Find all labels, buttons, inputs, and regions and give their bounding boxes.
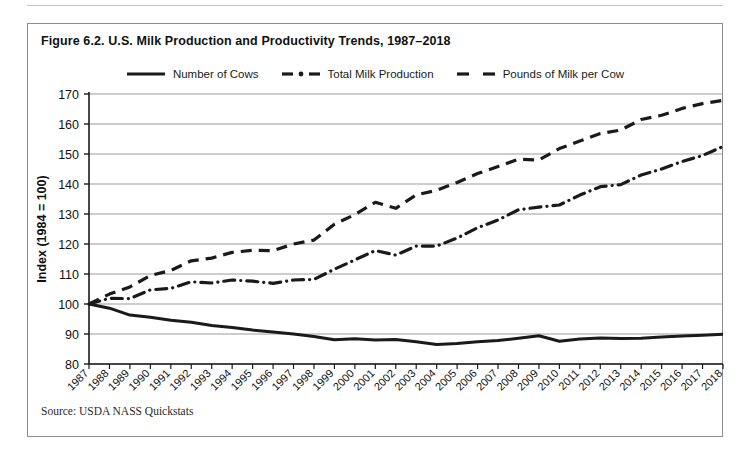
x-tick-label-1999: 1999: [310, 367, 336, 393]
x-tick-label-2015: 2015: [637, 367, 663, 393]
x-tick-label-1988: 1988: [85, 367, 111, 393]
x-tick-label-2000: 2000: [330, 367, 356, 393]
y-tick-label-110: 110: [59, 268, 79, 282]
x-tick-label-2005: 2005: [433, 367, 459, 393]
x-tick-label-1996: 1996: [249, 367, 275, 393]
x-tick-label-2003: 2003: [392, 367, 418, 393]
y-tick-label-90: 90: [65, 328, 79, 342]
x-tick-label-1998: 1998: [290, 367, 316, 393]
plot-area-wrapper: 1701601501401301201101009080 19871988198…: [28, 24, 724, 438]
x-tick-label-2004: 2004: [412, 367, 438, 393]
series-line-total-milk-production: [89, 147, 723, 305]
x-tick-label-2018: 2018: [699, 367, 724, 393]
x-tick-label-2010: 2010: [535, 367, 561, 393]
y-tick-labels: 1701601501401301201101009080: [58, 88, 79, 372]
x-tick-label-1995: 1995: [228, 367, 254, 393]
x-tick-label-2011: 2011: [556, 367, 581, 392]
x-tick-label-1992: 1992: [167, 367, 193, 393]
y-tick-label-150: 150: [58, 148, 79, 162]
x-tick-label-2009: 2009: [515, 367, 541, 393]
y-tick-label-120: 120: [58, 238, 79, 252]
x-tick-label-1993: 1993: [187, 367, 213, 393]
data-series-group: [89, 100, 723, 344]
milk-production-line-chart: 1701601501401301201101009080 19871988198…: [28, 24, 724, 438]
x-tick-label-2007: 2007: [474, 367, 500, 393]
y-axis: [84, 92, 89, 364]
x-tick-label-2002: 2002: [371, 367, 397, 393]
x-tick-labels: 1987198819891990199119921993199419951996…: [65, 367, 724, 393]
series-line-number-of-cows: [89, 304, 723, 345]
x-tick-label-1990: 1990: [126, 367, 152, 393]
y-axis-title-text: Index (1984 = 100): [35, 175, 49, 282]
source-note: Source: USDA NASS Quickstats: [41, 405, 193, 417]
y-tick-label-130: 130: [58, 208, 79, 222]
y-tick-label-80: 80: [65, 358, 79, 372]
y-axis-title: Index (1984 = 100): [35, 175, 49, 282]
x-tick-label-2012: 2012: [576, 367, 602, 393]
x-tick-label-2008: 2008: [494, 367, 520, 393]
x-tick-label-2016: 2016: [658, 367, 684, 393]
x-tick-label-2014: 2014: [617, 367, 643, 393]
figure-container: Figure 6.2. U.S. Milk Production and Pro…: [27, 23, 723, 437]
x-tick-label-1989: 1989: [106, 367, 132, 393]
y-tick-label-160: 160: [58, 118, 79, 132]
page-top-rule: [27, 5, 723, 6]
x-tick-label-2013: 2013: [596, 367, 622, 393]
x-tick-label-1994: 1994: [208, 367, 234, 393]
x-tick-label-2006: 2006: [453, 367, 479, 393]
x-tick-label-1991: 1991: [146, 367, 172, 393]
x-tick-label-2001: 2001: [351, 367, 377, 393]
x-tick-label-2017: 2017: [678, 367, 704, 393]
gridlines: [89, 94, 723, 364]
y-tick-label-170: 170: [58, 88, 79, 102]
y-tick-label-140: 140: [58, 178, 79, 192]
series-line-pounds-of-milk-per-cow: [89, 100, 723, 304]
x-tick-label-1997: 1997: [269, 367, 295, 393]
y-tick-label-100: 100: [58, 298, 79, 312]
